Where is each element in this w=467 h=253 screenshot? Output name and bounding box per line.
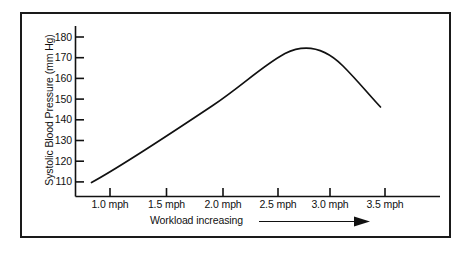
y-axis-ticks	[76, 37, 85, 182]
data-curve-systolic-bp	[92, 48, 381, 182]
y-axis-title: Systolic Blood Pressure (mm Hg)	[43, 15, 55, 205]
x-tick-label: 2.0 mph	[195, 199, 251, 210]
x-tick-label: 2.5 mph	[250, 199, 306, 210]
x-tick-label: 3.0 mph	[302, 199, 358, 210]
x-axis-ticks	[110, 188, 385, 197]
x-tick-label: 1.0 mph	[82, 199, 138, 210]
x-tick-label: 3.5 mph	[357, 199, 413, 210]
x-axis-title: Workload increasing	[150, 214, 243, 226]
workload-arrow-icon	[259, 217, 370, 227]
chart-figure: 180 170 160 150 140 130 120 110 1.0 mph …	[0, 0, 467, 253]
x-tick-label: 1.5 mph	[139, 199, 195, 210]
